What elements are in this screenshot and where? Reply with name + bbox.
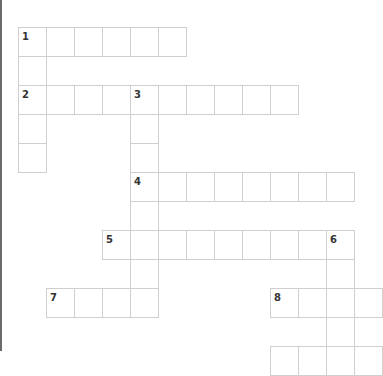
crossword-cell[interactable]: [74, 27, 103, 57]
crossword-cell[interactable]: [18, 143, 47, 173]
crossword-cell[interactable]: [46, 27, 75, 57]
crossword-cell[interactable]: [74, 288, 103, 318]
crossword-cell[interactable]: [130, 27, 159, 57]
crossword-cell[interactable]: [46, 85, 75, 115]
crossword-cell[interactable]: [186, 230, 215, 260]
crossword-cell[interactable]: [326, 172, 355, 202]
crossword-cell[interactable]: 3: [130, 85, 159, 115]
crossword-cell[interactable]: [354, 346, 383, 376]
clue-number: 8: [274, 292, 281, 304]
crossword-cell[interactable]: [326, 346, 355, 376]
crossword-cell[interactable]: [242, 230, 271, 260]
crossword-cell[interactable]: [242, 172, 271, 202]
crossword-cell[interactable]: [270, 172, 299, 202]
clue-number: 6: [330, 234, 337, 246]
clue-number: 5: [106, 234, 113, 246]
crossword-cell[interactable]: 7: [46, 288, 75, 318]
crossword-cell[interactable]: [18, 56, 47, 86]
crossword-cell[interactable]: [270, 85, 299, 115]
crossword-cell[interactable]: [130, 230, 159, 260]
crossword-cell[interactable]: [354, 288, 383, 318]
crossword-cell[interactable]: [298, 172, 327, 202]
crossword-cell[interactable]: [298, 288, 327, 318]
crossword-cell[interactable]: [270, 230, 299, 260]
crossword-cell[interactable]: [18, 114, 47, 144]
crossword-cell[interactable]: [298, 230, 327, 260]
crossword-cell[interactable]: [270, 346, 299, 376]
clue-number: 7: [50, 292, 57, 304]
crossword-cell[interactable]: [130, 259, 159, 289]
crossword-cell[interactable]: [298, 346, 327, 376]
crossword-cell[interactable]: [326, 288, 355, 318]
crossword-cell[interactable]: [214, 85, 243, 115]
crossword-cell[interactable]: 4: [130, 172, 159, 202]
crossword-cell[interactable]: [130, 143, 159, 173]
crossword-cell[interactable]: [326, 259, 355, 289]
clue-number: 1: [22, 31, 29, 43]
crossword-cell[interactable]: [158, 230, 187, 260]
crossword-cell[interactable]: 8: [270, 288, 299, 318]
crossword-cell[interactable]: [186, 85, 215, 115]
crossword-cell[interactable]: [102, 27, 131, 57]
clue-number: 4: [134, 176, 141, 188]
crossword-cell[interactable]: [158, 27, 187, 57]
crossword-cell[interactable]: [186, 172, 215, 202]
crossword-cell[interactable]: [326, 317, 355, 347]
crossword-cell[interactable]: [130, 201, 159, 231]
crossword-cell[interactable]: [102, 85, 131, 115]
crossword-cell[interactable]: 2: [18, 85, 47, 115]
crossword-cell[interactable]: [242, 85, 271, 115]
crossword-cell[interactable]: [74, 85, 103, 115]
crossword-cell[interactable]: [158, 172, 187, 202]
clue-number: 2: [22, 89, 29, 101]
crossword-cell[interactable]: 5: [102, 230, 131, 260]
crossword-cell[interactable]: 1: [18, 27, 47, 57]
crossword-cell[interactable]: [214, 172, 243, 202]
crossword-cell[interactable]: [214, 230, 243, 260]
crossword-cell[interactable]: [158, 85, 187, 115]
crossword-cell[interactable]: [130, 288, 159, 318]
crossword-cell[interactable]: 6: [326, 230, 355, 260]
crossword-cell[interactable]: [102, 288, 131, 318]
crossword-cell[interactable]: [130, 114, 159, 144]
clue-number: 3: [134, 89, 141, 101]
